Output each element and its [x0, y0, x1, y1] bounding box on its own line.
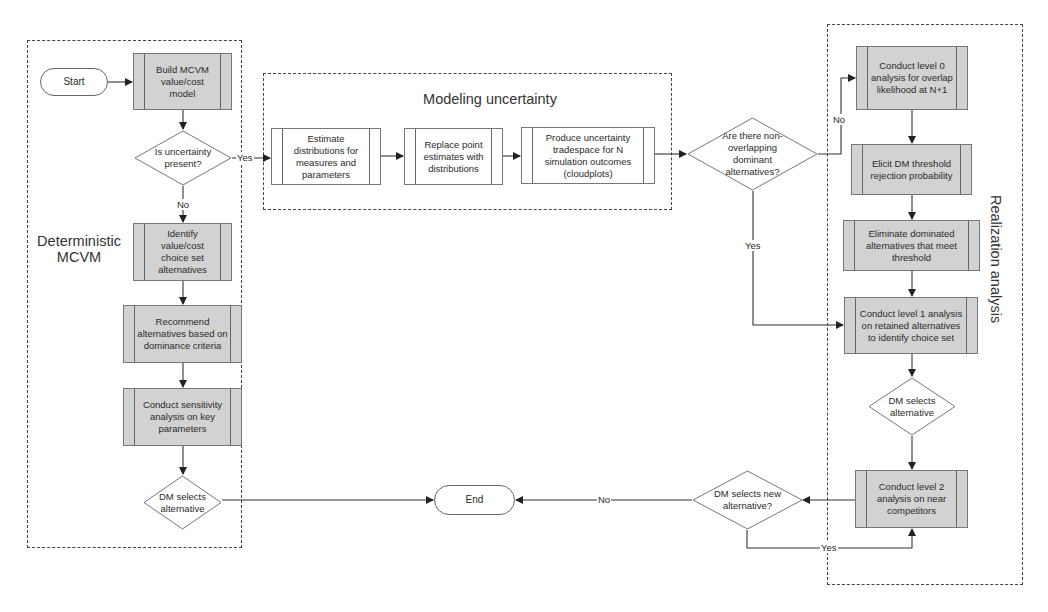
- deterministic-title: Deterministic MCVM: [28, 233, 130, 265]
- elicit-threshold-step[interactable]: Elicit DM threshold rejection probabilit…: [851, 144, 972, 195]
- edge-label-nonoverlap-no: No: [832, 114, 846, 125]
- eliminate-dominated-label: Eliminate dominated alternatives that me…: [844, 228, 979, 264]
- elicit-threshold-label: Elicit DM threshold rejection probabilit…: [852, 158, 971, 182]
- estimate-distributions-label: Estimate distributions for measures and …: [272, 133, 380, 181]
- produce-tradespace-label: Produce uncertainty tradespace for N sim…: [522, 132, 654, 180]
- level2-analysis-step[interactable]: Conduct level 2 analysis on near competi…: [855, 470, 968, 528]
- edge-label-uncertainty-no: No: [176, 199, 190, 210]
- estimate-distributions-step[interactable]: Estimate distributions for measures and …: [271, 128, 381, 185]
- edge-label-uncertainty-yes: Yes: [236, 152, 254, 163]
- replace-estimates-label: Replace point estimates with distributio…: [405, 139, 502, 175]
- replace-estimates-step[interactable]: Replace point estimates with distributio…: [404, 128, 503, 185]
- new-alternative-label: DM selects new alternative?: [709, 488, 787, 512]
- deterministic-title-line2: MCVM: [28, 249, 130, 265]
- edge-label-nonoverlap-yes: Yes: [744, 240, 762, 251]
- build-model-step[interactable]: Build MCVM value/cost model: [133, 53, 232, 110]
- sensitivity-analysis-step[interactable]: Conduct sensitivity analysis on key para…: [123, 388, 242, 446]
- eliminate-dominated-step[interactable]: Eliminate dominated alternatives that me…: [843, 220, 980, 271]
- dm-selects-left-label: DM selects alternative: [157, 491, 209, 515]
- deterministic-title-line1: Deterministic: [28, 233, 130, 249]
- level2-analysis-label: Conduct level 2 analysis on near competi…: [856, 481, 967, 517]
- level1-analysis-label: Conduct level 1 analysis on retained alt…: [845, 308, 977, 344]
- dm-selects-right-decision[interactable]: DM selects alternative: [868, 377, 956, 436]
- edge-label-newalt-no: No: [597, 494, 611, 505]
- start-label: Start: [63, 76, 84, 88]
- new-alternative-decision[interactable]: DM selects new alternative?: [692, 470, 803, 530]
- level1-analysis-step[interactable]: Conduct level 1 analysis on retained alt…: [844, 297, 978, 354]
- end-terminal[interactable]: End: [434, 485, 515, 515]
- dm-selects-left-decision[interactable]: DM selects alternative: [143, 475, 222, 530]
- level0-analysis-step[interactable]: Conduct level 0 analysis for overlap lik…: [856, 46, 968, 110]
- recommend-alternatives-step[interactable]: Recommend alternatives based on dominanc…: [123, 305, 242, 363]
- start-terminal[interactable]: Start: [40, 68, 108, 96]
- nonoverlap-decision[interactable]: Are there non-overlapping dominant alter…: [687, 117, 818, 191]
- modeling-title: Modeling uncertainty: [380, 91, 600, 107]
- uncertainty-decision-label: Is uncertainty present?: [151, 146, 215, 170]
- dm-selects-right-label: DM selects alternative: [885, 395, 939, 419]
- recommend-alternatives-label: Recommend alternatives based on dominanc…: [124, 316, 241, 352]
- edge-label-newalt-yes: Yes: [820, 542, 838, 553]
- uncertainty-decision[interactable]: Is uncertainty present?: [134, 130, 232, 186]
- level0-analysis-label: Conduct level 0 analysis for overlap lik…: [857, 60, 967, 96]
- realization-title: Realization analysis: [988, 195, 1004, 323]
- end-label: End: [466, 494, 484, 506]
- build-model-label: Build MCVM value/cost model: [134, 64, 231, 100]
- identify-alternatives-step[interactable]: Identify value/cost choice set alternati…: [133, 223, 232, 281]
- sensitivity-analysis-label: Conduct sensitivity analysis on key para…: [124, 399, 241, 435]
- identify-alternatives-label: Identify value/cost choice set alternati…: [134, 228, 231, 276]
- produce-tradespace-step[interactable]: Produce uncertainty tradespace for N sim…: [521, 127, 655, 184]
- nonoverlap-decision-label: Are there non-overlapping dominant alter…: [709, 130, 797, 178]
